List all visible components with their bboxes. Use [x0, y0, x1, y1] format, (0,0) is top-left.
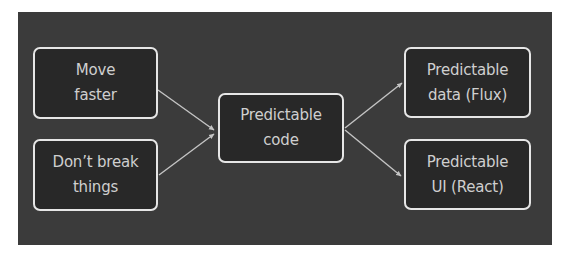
node-predictable-code: Predictable code [218, 93, 344, 163]
node-label-line: Don’t break [53, 150, 139, 175]
node-predictable-data: Predictable data (Flux) [404, 47, 531, 118]
node-label-line: Predictable [240, 103, 322, 128]
node-label-line: faster [74, 83, 116, 108]
node-label-line: data (Flux) [428, 83, 507, 108]
node-label-line: Predictable [427, 58, 509, 83]
node-label-line: Predictable [427, 150, 509, 175]
node-label-line: Move [76, 58, 115, 83]
node-label-line: things [73, 175, 118, 200]
node-dont-break-things: Don’t break things [33, 139, 158, 211]
node-predictable-ui: Predictable UI (React) [404, 139, 531, 210]
node-move-faster: Move faster [33, 47, 158, 119]
node-label-line: UI (React) [431, 175, 503, 200]
node-label-line: code [263, 128, 298, 153]
